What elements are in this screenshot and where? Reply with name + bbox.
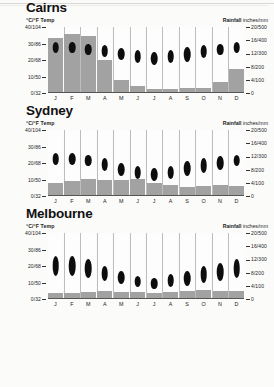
column-divider (212, 233, 213, 299)
month-label: J (48, 93, 63, 103)
rainfall-tick: 16/400 (244, 243, 267, 249)
temperature-range-oval (151, 168, 158, 181)
month-label: F (64, 196, 79, 206)
temperature-range-oval (135, 276, 142, 288)
month-columns (48, 130, 244, 196)
rainfall-tick: 20/500 (244, 230, 267, 236)
month-label: N (213, 93, 228, 103)
month-column (48, 130, 63, 196)
rainfall-tick: 8/200 (244, 270, 264, 276)
rainfall-bar (114, 180, 129, 196)
month-label: A (163, 93, 178, 103)
temp-tick: 20/68 (28, 263, 48, 269)
rainfall-tick-label: 0 (251, 90, 254, 96)
rainfall-tick-label: 8/200 (251, 167, 264, 173)
plot-inner: 40/10430/8620/6810/500/3220/50016/40012/… (48, 130, 244, 196)
rainfall-tick-label: 12/300 (251, 50, 267, 56)
month-label: S (180, 299, 195, 309)
month-label: D (229, 299, 244, 309)
rainfall-tick: 8/200 (244, 167, 264, 173)
month-column (229, 233, 244, 299)
month-column (64, 233, 79, 299)
month-label: N (213, 196, 228, 206)
rainfall-tick: 4/100 (244, 283, 264, 289)
rainfall-tick: 8/200 (244, 64, 264, 70)
month-label: A (163, 196, 178, 206)
rainfall-axis-label-units: inches/mm (243, 223, 268, 229)
rainfall-tick: 20/500 (244, 24, 267, 30)
column-divider (162, 27, 163, 93)
panel-title: Melbourne (26, 206, 274, 221)
month-column (130, 130, 145, 196)
tick-dash-icon (246, 260, 250, 261)
temp-tick: 10/50 (28, 177, 48, 183)
temperature-range-oval (200, 45, 207, 58)
temp-axis-label: °C/°F Temp (26, 120, 54, 126)
month-column (180, 130, 195, 196)
temp-tick-label: 10/50 (28, 177, 41, 183)
rainfall-tick-label: 12/300 (251, 153, 267, 159)
temp-tick: 30/86 (28, 41, 48, 47)
tick-dash-icon (246, 286, 250, 287)
temperature-range-oval (167, 50, 174, 63)
column-divider (80, 233, 81, 299)
month-label: F (64, 299, 79, 309)
tick-dash-icon (42, 196, 46, 197)
rainfall-tick-label: 20/500 (251, 127, 267, 133)
month-label: M (114, 93, 129, 103)
tick-dash-icon (42, 130, 46, 131)
tick-dash-icon (42, 163, 46, 164)
rainfall-tick-label: 0 (251, 193, 254, 199)
panel-title: Cairns (26, 0, 274, 15)
month-columns (48, 27, 244, 93)
temperature-range-oval (184, 271, 191, 286)
rainfall-axis-label: Rainfall inches/mm (223, 120, 268, 126)
temp-tick: 20/68 (28, 57, 48, 63)
tick-dash-icon (246, 93, 250, 94)
column-divider (179, 233, 180, 299)
tick-dash-icon (246, 80, 250, 81)
temperature-range-oval (85, 155, 92, 167)
temperature-range-oval (167, 274, 174, 287)
rainfall-axis-label-units: inches/mm (243, 17, 268, 23)
rainfall-tick: 4/100 (244, 77, 264, 83)
tick-dash-icon (42, 250, 46, 251)
month-label: M (81, 93, 96, 103)
column-divider (146, 233, 147, 299)
temperature-range-oval (200, 266, 207, 283)
temp-tick-label: 40/104 (25, 230, 41, 236)
column-divider (146, 27, 147, 93)
month-column (97, 130, 112, 196)
temp-tick-label: 0/32 (31, 296, 41, 302)
rainfall-tick: 12/300 (244, 153, 267, 159)
rainfall-tick: 0 (244, 296, 254, 302)
month-column (147, 233, 162, 299)
column-divider (97, 233, 98, 299)
temperature-range-oval (118, 163, 125, 176)
temperature-range-oval (102, 266, 109, 281)
tick-dash-icon (42, 180, 46, 181)
rainfall-tick-label: 0 (251, 296, 254, 302)
month-column (130, 27, 145, 93)
temperature-range-oval (233, 155, 240, 167)
month-column (97, 233, 112, 299)
temperature-range-oval (102, 45, 109, 57)
tick-dash-icon (246, 273, 250, 274)
month-column (81, 27, 96, 93)
rainfall-tick-label: 16/400 (251, 140, 267, 146)
temp-tick: 10/50 (28, 74, 48, 80)
climate-panel-cairns: Cairns°C/°F TempRainfall inches/mm40/104… (0, 0, 274, 103)
month-label: J (48, 299, 63, 309)
month-column (81, 233, 96, 299)
column-divider (162, 233, 163, 299)
rainfall-bar (147, 183, 162, 196)
temperature-range-oval (85, 259, 92, 277)
temp-tick: 0/32 (31, 90, 48, 96)
rainfall-axis-label-name: Rainfall (223, 17, 242, 23)
column-divider (179, 27, 180, 93)
temperature-range-oval (69, 256, 76, 276)
month-column (229, 27, 244, 93)
month-column (163, 233, 178, 299)
tick-dash-icon (246, 67, 250, 68)
rainfall-tick-label: 8/200 (251, 270, 264, 276)
